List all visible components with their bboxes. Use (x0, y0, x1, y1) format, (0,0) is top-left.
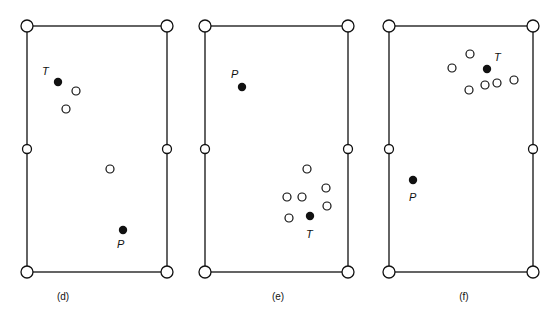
corner-pocket (161, 20, 173, 32)
billiard-diagram: TP(d)TP(e)TP(f) (0, 0, 558, 325)
target-ball (483, 65, 491, 73)
corner-pocket (199, 20, 211, 32)
panel-caption: (d) (57, 291, 69, 302)
obstacle-ball (298, 193, 306, 201)
table-outline (389, 26, 533, 272)
cue-ball (409, 176, 417, 184)
corner-pocket (383, 266, 395, 278)
table-panel-d: TP(d) (21, 20, 173, 302)
target-ball (306, 212, 314, 220)
corner-pocket (342, 266, 354, 278)
table-outline (27, 26, 167, 272)
side-pocket (529, 145, 538, 154)
table-outline (205, 26, 348, 272)
obstacle-ball (493, 79, 501, 87)
cue-label: P (409, 191, 417, 203)
corner-pocket (21, 266, 33, 278)
obstacle-ball (303, 165, 311, 173)
panel-caption: (e) (272, 291, 284, 302)
cue-label: P (117, 238, 125, 250)
panel-caption: (f) (459, 291, 468, 302)
side-pocket (385, 145, 394, 154)
corner-pocket (527, 266, 539, 278)
side-pocket (163, 145, 172, 154)
corner-pocket (527, 20, 539, 32)
side-pocket (23, 145, 32, 154)
corner-pocket (161, 266, 173, 278)
corner-pocket (21, 20, 33, 32)
table-panel-f: TP(f) (383, 20, 539, 302)
side-pocket (344, 145, 353, 154)
obstacle-ball (283, 193, 291, 201)
obstacle-ball (322, 184, 330, 192)
obstacle-ball (106, 165, 114, 173)
corner-pocket (383, 20, 395, 32)
obstacle-ball (323, 202, 331, 210)
cue-ball (119, 226, 127, 234)
obstacle-ball (72, 87, 80, 95)
obstacle-ball (466, 50, 474, 58)
obstacle-ball (62, 105, 70, 113)
obstacle-ball (448, 64, 456, 72)
cue-ball (238, 83, 246, 91)
table-panel-e: TP(e) (199, 20, 354, 302)
corner-pocket (342, 20, 354, 32)
target-ball (54, 78, 62, 86)
side-pocket (201, 145, 210, 154)
obstacle-ball (510, 76, 518, 84)
obstacle-ball (481, 81, 489, 89)
corner-pocket (199, 266, 211, 278)
obstacle-ball (465, 86, 473, 94)
obstacle-ball (285, 214, 293, 222)
cue-label: P (231, 68, 239, 80)
